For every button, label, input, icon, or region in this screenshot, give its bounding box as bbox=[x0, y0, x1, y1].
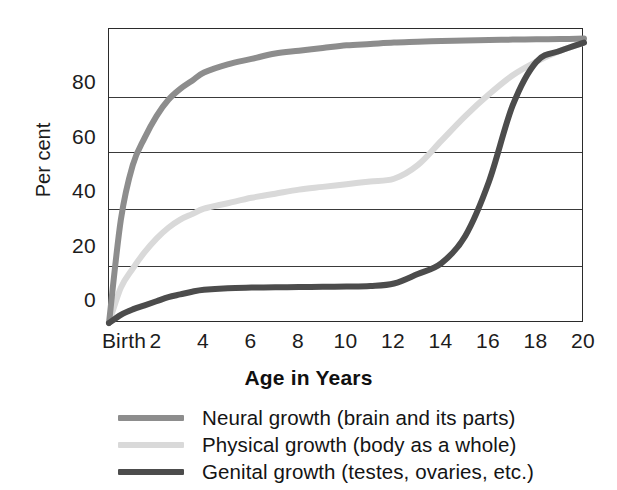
plot-area bbox=[108, 28, 583, 322]
y-tick-80: 80 bbox=[50, 71, 96, 92]
legend-item-genital: Genital growth (testes, ovaries, etc.) bbox=[118, 458, 588, 485]
y-tick-40: 40 bbox=[50, 180, 96, 201]
legend-swatch-icon bbox=[118, 469, 184, 475]
legend-label: Neural growth (brain and its parts) bbox=[202, 407, 515, 429]
chart-legend: Neural growth (brain and its parts)Physi… bbox=[118, 404, 588, 485]
legend-swatch-icon bbox=[118, 442, 184, 448]
x-tick-6: 6 bbox=[245, 330, 257, 351]
x-axis-title: Age in Years bbox=[0, 367, 617, 389]
x-tick-20: 20 bbox=[571, 330, 595, 351]
x-tick-2: 2 bbox=[150, 330, 162, 351]
legend-swatch-icon bbox=[118, 415, 184, 421]
x-tick-4: 4 bbox=[197, 330, 209, 351]
x-tick-14: 14 bbox=[429, 330, 453, 351]
y-tick-60: 60 bbox=[50, 126, 96, 147]
curve-layer bbox=[109, 29, 584, 323]
legend-label: Genital growth (testes, ovaries, etc.) bbox=[202, 461, 534, 483]
y-tick-20: 20 bbox=[50, 235, 96, 256]
x-tick-10: 10 bbox=[334, 330, 358, 351]
y-axis-title: Per cent bbox=[33, 95, 53, 225]
growth-curves-figure: Per cent 020406080 Birth2468101214161820… bbox=[0, 0, 617, 490]
curve-neural bbox=[109, 39, 584, 323]
x-tick-12: 12 bbox=[381, 330, 405, 351]
y-tick-0: 0 bbox=[50, 289, 96, 310]
x-tick-18: 18 bbox=[524, 330, 548, 351]
x-tick-16: 16 bbox=[476, 330, 500, 351]
legend-item-physical: Physical growth (body as a whole) bbox=[118, 431, 588, 458]
x-tick-8: 8 bbox=[292, 330, 304, 351]
legend-label: Physical growth (body as a whole) bbox=[202, 434, 516, 456]
x-tick-Birth: Birth bbox=[102, 330, 146, 351]
curve-physical bbox=[109, 43, 584, 323]
legend-item-neural: Neural growth (brain and its parts) bbox=[118, 404, 588, 431]
